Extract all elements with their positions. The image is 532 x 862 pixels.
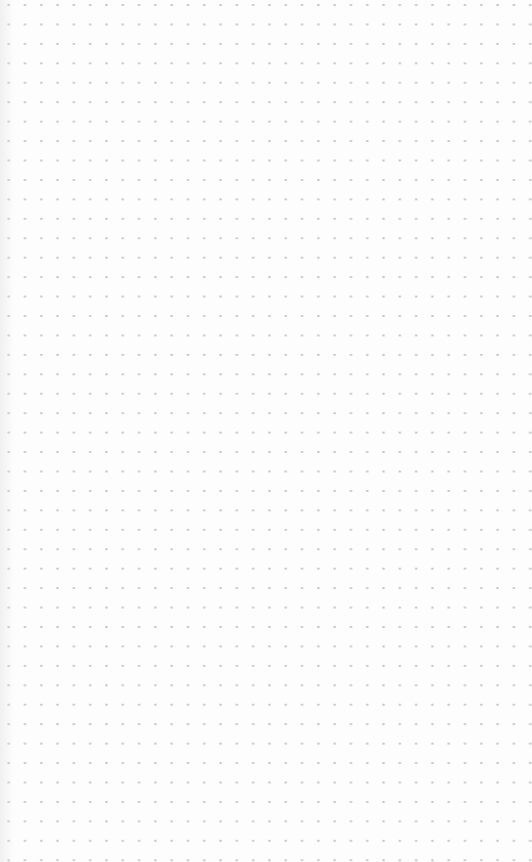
left-edge-shade [0, 0, 14, 862]
dot-grid-canvas[interactable] [0, 0, 532, 862]
